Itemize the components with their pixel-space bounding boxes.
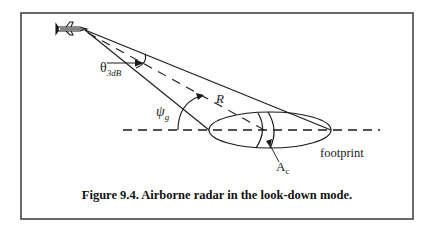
grazing-angle-arc (178, 96, 200, 130)
clutter-area-label: Ac (276, 159, 289, 176)
airborne-radar-figure: θ3dB R ψg Ac footprint Figure 9.4. Airbo… (0, 0, 435, 231)
range-label: R (215, 91, 224, 106)
beam-upper-edge (85, 30, 331, 130)
grazing-angle-label: ψg (156, 104, 170, 122)
beam-center-line (88, 33, 268, 132)
aircraft-icon (56, 22, 87, 35)
beam-lower-edge (85, 30, 209, 130)
beamwidth-arrowhead (135, 60, 144, 67)
footprint-label: footprint (320, 146, 364, 160)
figure-caption: Figure 9.4. Airborne radar in the look-d… (21, 188, 413, 203)
